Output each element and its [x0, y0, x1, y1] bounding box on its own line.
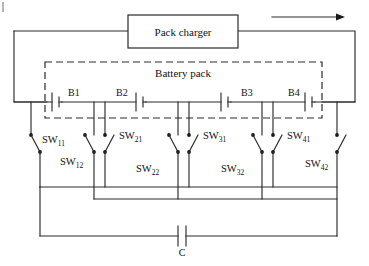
switch-label-sw31: SW31 [203, 130, 227, 144]
switch-label-sw12: SW12 [60, 156, 84, 170]
current-direction-arrow [272, 14, 345, 21]
capacitor-symbol [178, 226, 186, 246]
cell-label-b3: B3 [241, 87, 253, 98]
charger-left-return [14, 31, 47, 102]
switch-label-sw11: SW11 [42, 134, 65, 148]
switch-sw32[interactable] [251, 133, 264, 199]
cell-label-b1: B1 [68, 87, 80, 98]
switch-label-sw21: SW21 [119, 130, 143, 144]
battery-pack-label: Battery pack [155, 67, 211, 79]
battery-cell-symbol-b3 [221, 93, 231, 111]
switch-sw12[interactable] [83, 133, 96, 199]
circuit-diagram: Pack charger Battery pack B1 B2 B [0, 0, 369, 266]
switch-sw42[interactable] [335, 133, 346, 236]
switch-sw11[interactable] [29, 133, 42, 187]
cell-label-b2: B2 [116, 87, 128, 98]
switch-labels: SW11 SW12 SW21 SW22 SW31 SW32 SW41 SW42 [42, 130, 329, 177]
switch-sw41[interactable] [271, 133, 282, 187]
switch-sw31[interactable] [187, 133, 198, 187]
switch-label-sw41: SW41 [287, 130, 311, 144]
switch-sw21[interactable] [103, 133, 114, 187]
switch-label-sw22: SW22 [136, 163, 160, 177]
cell-label-b4: B4 [288, 87, 300, 98]
switch-label-sw42: SW42 [305, 158, 329, 172]
battery-cell-symbol-b4 [305, 93, 315, 111]
switch-sw22[interactable] [167, 133, 180, 199]
switch-label-sw32: SW32 [221, 163, 245, 177]
battery-cell-symbol-b1 [52, 93, 62, 111]
battery-cell-symbol-b2 [136, 93, 146, 111]
pack-charger-label: Pack charger [155, 26, 212, 38]
capacitor-label: C [179, 247, 186, 258]
